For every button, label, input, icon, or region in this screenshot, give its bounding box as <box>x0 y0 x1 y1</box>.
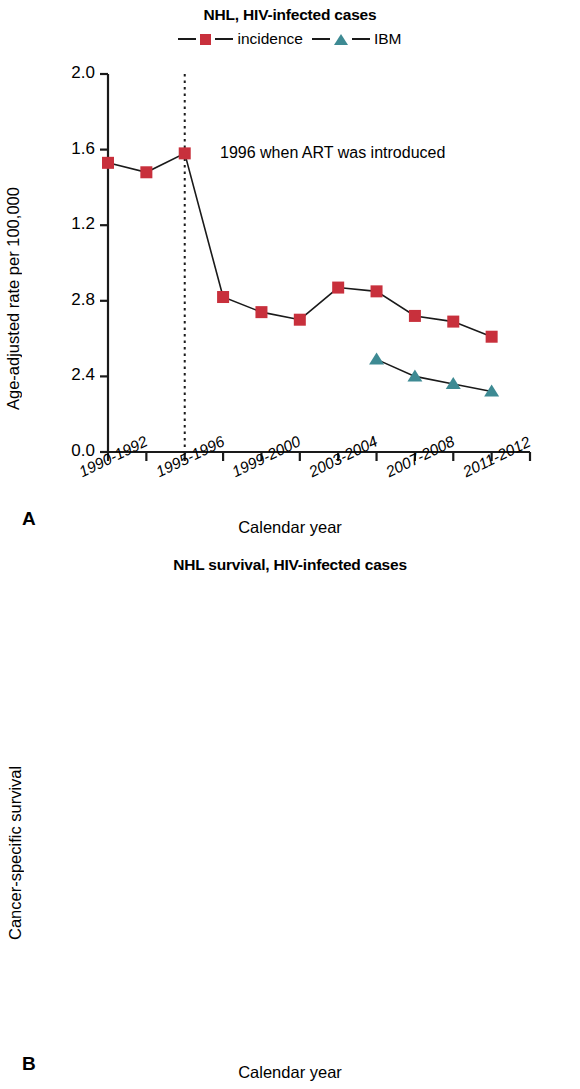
data-point-square <box>409 310 421 322</box>
y-tick-label: 2.8 <box>71 290 95 310</box>
data-point-square <box>332 282 344 294</box>
data-point-square <box>140 166 152 178</box>
y-tick-label: 1.2 <box>71 214 95 234</box>
panel-letter-b: B <box>22 1053 36 1075</box>
series-line <box>108 153 492 336</box>
chart-b-plot-area <box>0 545 580 1089</box>
panel-b: NHL survival, HIV-infected cases <box>0 545 580 1089</box>
chart-b-x-axis-title: Calendar year <box>0 1063 580 1082</box>
chart-a-x-axis-title: Calendar year <box>0 518 580 537</box>
data-point-square <box>371 285 383 297</box>
data-point-square <box>102 157 114 169</box>
chart-b-svg <box>0 545 580 1089</box>
data-point-square <box>179 147 191 159</box>
data-point-square <box>294 314 306 326</box>
y-tick-label: 2.0 <box>71 63 95 83</box>
data-point-triangle <box>407 369 422 381</box>
data-point-square <box>447 316 459 328</box>
y-tick-label: 1.6 <box>71 139 95 159</box>
data-point-square <box>255 306 267 318</box>
art-annotation: 1996 when ART was introduced <box>220 144 445 162</box>
series-line <box>377 359 492 391</box>
chart-b-y-axis-title: Cancer-specific survival <box>6 650 25 940</box>
y-tick-label: 2.4 <box>71 365 95 385</box>
panel-letter-a: A <box>22 508 36 530</box>
data-point-square <box>486 331 498 343</box>
axis-lines <box>108 74 530 452</box>
data-point-square <box>217 291 229 303</box>
data-point-triangle <box>369 352 384 364</box>
